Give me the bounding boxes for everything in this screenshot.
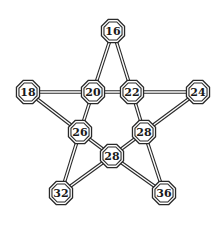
node-n32: 32 [49, 181, 72, 204]
node-n24: 24 [186, 80, 209, 103]
node-label: 24 [190, 86, 206, 99]
node-n28r: 28 [132, 120, 155, 143]
node-label: 28 [136, 126, 152, 139]
node-label: 32 [53, 187, 68, 200]
node-n22: 22 [120, 80, 143, 103]
node-n28c: 28 [100, 144, 123, 167]
node-label: 26 [72, 126, 88, 139]
node-label: 20 [85, 86, 101, 99]
node-label: 28 [104, 150, 120, 163]
node-label: 18 [20, 86, 36, 99]
node-label: 36 [156, 187, 172, 200]
nodes-layer: 16182022242628283236 [16, 19, 209, 204]
node-label: 16 [105, 25, 121, 38]
pentagram-diagram: 16182022242628283236 [0, 0, 222, 225]
node-n18: 18 [16, 80, 39, 103]
node-n20: 20 [81, 80, 104, 103]
node-n26: 26 [68, 120, 91, 143]
edges-layer [28, 31, 198, 193]
node-n16: 16 [101, 19, 124, 42]
node-n36: 36 [152, 181, 175, 204]
node-label: 22 [124, 86, 139, 99]
